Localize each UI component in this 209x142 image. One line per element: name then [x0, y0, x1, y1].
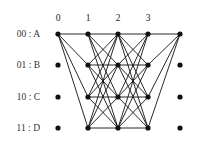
trellis-node — [55, 125, 60, 130]
state-label-a: 00 : A — [17, 29, 40, 39]
trellis-node — [145, 31, 150, 36]
trellis-edge — [58, 34, 88, 128]
trellis-edge — [148, 34, 180, 128]
stage-label-0: 0 — [56, 13, 61, 23]
trellis-node — [177, 94, 182, 99]
trellis-node — [55, 31, 60, 36]
trellis-edge — [148, 34, 180, 65]
stage-label-2: 2 — [116, 13, 121, 23]
trellis-diagram: 0 1 2 3 00 : A 01 : B 10 : C 11 : D — [0, 0, 209, 142]
trellis-node — [115, 94, 120, 99]
trellis-edge — [148, 34, 180, 97]
stage-labels: 0 1 2 3 — [56, 13, 151, 23]
trellis-edges — [58, 34, 180, 128]
trellis-node — [115, 62, 120, 67]
trellis-node — [55, 62, 60, 67]
trellis-nodes — [55, 31, 182, 130]
trellis-node — [85, 62, 90, 67]
stage-label-1: 1 — [86, 13, 91, 23]
stage-label-3: 3 — [146, 13, 151, 23]
trellis-node — [85, 31, 90, 36]
trellis-node — [177, 125, 182, 130]
trellis-node — [115, 125, 120, 130]
state-labels: 00 : A 01 : B 10 : C 11 : D — [17, 29, 41, 133]
state-label-b: 01 : B — [17, 60, 40, 70]
trellis-node — [145, 125, 150, 130]
trellis-node — [85, 94, 90, 99]
trellis-node — [177, 62, 182, 67]
state-label-d: 11 : D — [17, 123, 41, 133]
trellis-node — [177, 31, 182, 36]
trellis-node — [85, 125, 90, 130]
trellis-node — [115, 31, 120, 36]
state-label-c: 10 : C — [17, 92, 40, 102]
trellis-node — [145, 94, 150, 99]
trellis-node — [55, 94, 60, 99]
trellis-node — [145, 62, 150, 67]
trellis-edge — [58, 34, 88, 97]
